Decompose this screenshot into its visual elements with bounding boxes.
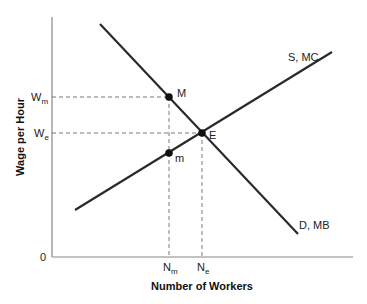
y-tick-we: We: [34, 127, 49, 142]
x-tick-ne: Ne: [197, 261, 210, 276]
supply-label: S, MC: [288, 51, 319, 63]
point-E: [198, 129, 206, 137]
label-M: M: [177, 87, 186, 99]
demand-curve: [100, 24, 298, 234]
label-m: m: [175, 152, 184, 164]
y-tick-wm: Wm: [31, 91, 48, 106]
point-M: [165, 93, 173, 101]
x-tick-nm: Nm: [163, 261, 178, 276]
chart: M E m S, MC D, MB Wm We 0 Nm Ne Number o…: [0, 0, 367, 304]
y-axis-title: Wage per Hour: [14, 97, 26, 176]
label-E: E: [209, 129, 216, 141]
origin-label: 0: [40, 251, 46, 263]
demand-label: D, MB: [299, 219, 330, 231]
point-m: [165, 149, 173, 157]
x-axis-title: Number of Workers: [151, 280, 253, 292]
